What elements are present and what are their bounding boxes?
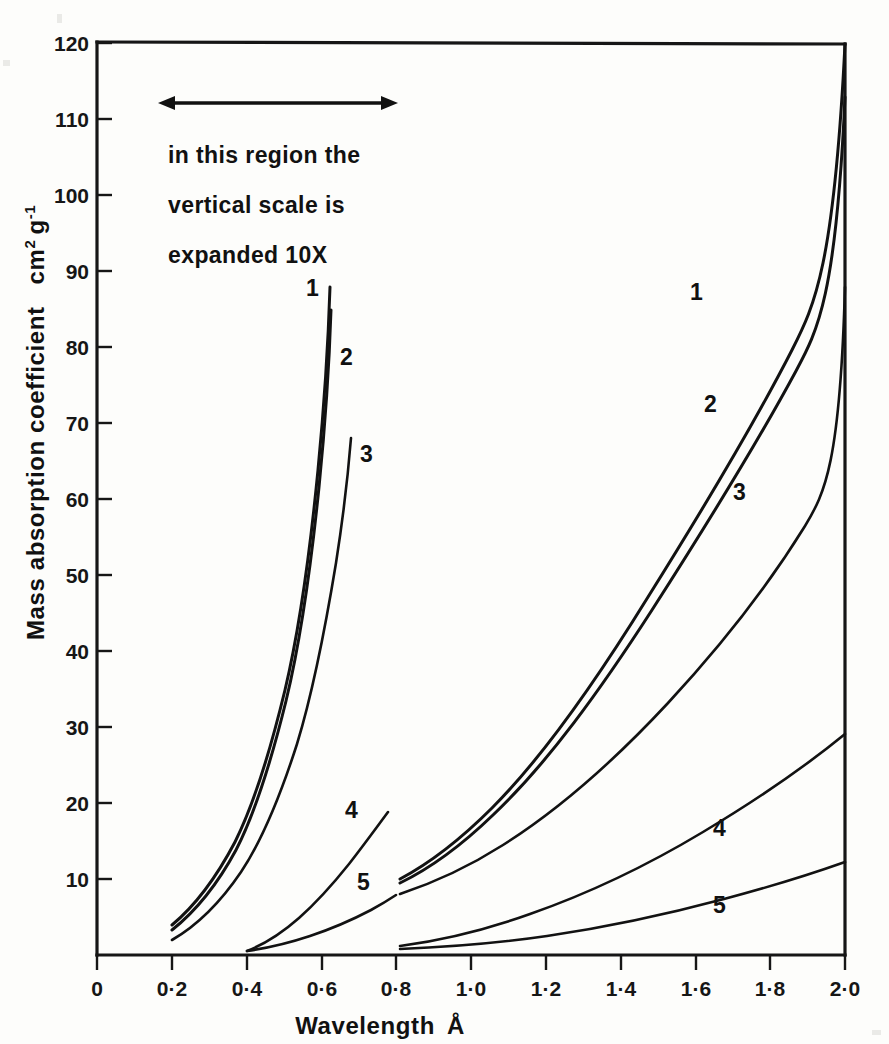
- y-tick-label: 20: [66, 792, 89, 815]
- y-axis-tick-labels: 10 20 30 40 50 60 70 80 90 100 110 120: [54, 32, 89, 891]
- curve-label-right-1: 1: [690, 279, 703, 305]
- y-tick-label: 70: [66, 412, 89, 435]
- left-group-curves: [172, 287, 396, 951]
- y-tick-label: 110: [55, 108, 89, 131]
- annotation-line-3: expanded 10X: [168, 242, 328, 268]
- x-tick-label: 0: [91, 977, 103, 1000]
- y-axis-title-main: Mass absorption coefficient: [22, 306, 49, 640]
- y-tick-label: 60: [66, 488, 89, 511]
- right-group-curve-labels: 1 2 3 4 5: [690, 279, 746, 918]
- y-axis-title: Mass absorption coefficientcm2g-1: [21, 205, 49, 640]
- x-tick-label: 1·2: [531, 977, 561, 1000]
- curve-label-left-5: 5: [357, 869, 370, 895]
- y-axis-unit-base: cm: [22, 249, 49, 285]
- curve-left-3: [172, 438, 351, 940]
- y-tick-label: 30: [66, 716, 89, 739]
- mass-absorption-chart: 10 20 30 40 50 60 70 80 90 100 110 120: [0, 0, 889, 1044]
- svg-text:WavelengthÅ: WavelengthÅ: [295, 1012, 465, 1039]
- y-axis-unit-sup-minus1: -1: [21, 205, 38, 220]
- annotation-line-2: vertical scale is: [168, 192, 345, 218]
- y-tick-label: 100: [54, 184, 89, 207]
- x-tick-label: 0·2: [157, 977, 187, 1000]
- curve-left-5: [247, 895, 396, 951]
- x-tick-label: 0·6: [307, 977, 337, 1000]
- x-axis-tick-labels: 0 0·2 0·4 0·6 0·8 1·0 1·2 1·4 1·6 1·8 2·…: [91, 977, 860, 1000]
- y-tick-label: 10: [66, 868, 89, 891]
- curve-label-right-3: 3: [733, 479, 746, 505]
- axis-top: [97, 42, 845, 44]
- x-axis-title-unit: Å: [447, 1012, 465, 1039]
- y-tick-label: 80: [66, 336, 89, 359]
- x-axis-ticks: [97, 955, 845, 970]
- y-tick-label: 120: [54, 32, 89, 55]
- y-axis-ticks: [97, 43, 112, 879]
- x-tick-label: 0·4: [232, 977, 263, 1000]
- curve-right-1: [400, 44, 845, 879]
- curve-label-right-5: 5: [713, 892, 726, 918]
- x-tick-label: 0·8: [381, 977, 412, 1000]
- x-tick-label: 2·0: [830, 977, 860, 1000]
- left-group-curve-labels: 1 2 3 4 5: [306, 275, 373, 895]
- x-tick-label: 1·6: [681, 977, 711, 1000]
- annotation-line-1: in this region the: [168, 142, 360, 168]
- curve-label-left-3: 3: [360, 441, 373, 467]
- curve-left-2: [172, 310, 331, 930]
- right-group-curves: [400, 44, 845, 949]
- x-axis-title: WavelengthÅ: [295, 1012, 465, 1039]
- curve-label-left-2: 2: [340, 344, 353, 370]
- curve-label-right-4: 4: [713, 815, 726, 841]
- y-tick-label: 40: [66, 640, 89, 663]
- x-tick-label: 1·4: [606, 977, 637, 1000]
- y-axis-unit-mid: g: [22, 219, 49, 234]
- svg-text:Mass absorption coefficientcm2: Mass absorption coefficientcm2g-1: [21, 205, 49, 640]
- y-tick-label: 90: [66, 260, 89, 283]
- x-tick-label: 1·8: [755, 977, 786, 1000]
- curve-left-1: [172, 287, 330, 925]
- x-axis-title-main: Wavelength: [295, 1012, 435, 1039]
- expanded-region-annotation: in this region the vertical scale is exp…: [158, 96, 398, 268]
- curve-label-left-4: 4: [345, 797, 358, 823]
- curve-label-left-1: 1: [306, 275, 319, 301]
- arrow-head-left-icon: [158, 96, 175, 110]
- curve-label-right-2: 2: [704, 391, 717, 417]
- y-tick-label: 50: [66, 564, 89, 587]
- curve-right-2: [400, 97, 845, 883]
- x-tick-label: 1·0: [456, 977, 486, 1000]
- arrow-head-right-icon: [381, 96, 398, 110]
- figure-root: 10 20 30 40 50 60 70 80 90 100 110 120: [0, 0, 889, 1044]
- y-axis-unit-sup-2: 2: [21, 240, 38, 249]
